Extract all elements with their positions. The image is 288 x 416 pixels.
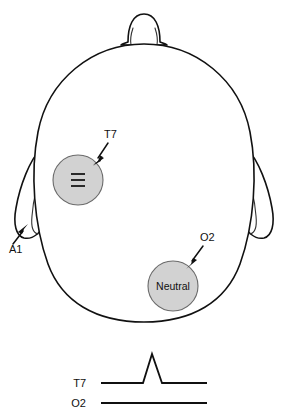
- nose-outline: [121, 14, 167, 45]
- callout-t7-label: T7: [104, 128, 117, 140]
- trace-o2-label: O2: [71, 397, 86, 409]
- electrode-o2-inner-label: Neutral: [156, 280, 190, 292]
- trace-t7-waveform: [101, 354, 207, 383]
- eeg-electrode-placement-figure: Neutral T7 A1 O2 T7: [0, 0, 288, 416]
- figure-canvas: Neutral T7 A1 O2 T7: [0, 0, 288, 416]
- signal-traces-group: T7 O2: [71, 354, 207, 409]
- electrode-t7[interactable]: [53, 155, 103, 205]
- callout-a1-label: A1: [9, 243, 22, 255]
- nose-group: [121, 14, 167, 45]
- callout-o2-label: O2: [200, 231, 215, 243]
- trace-t7-label: T7: [73, 377, 86, 389]
- electrode-o2[interactable]: Neutral: [148, 261, 198, 311]
- trace-o2-group: O2: [71, 397, 207, 409]
- trace-t7-group: T7: [73, 354, 207, 389]
